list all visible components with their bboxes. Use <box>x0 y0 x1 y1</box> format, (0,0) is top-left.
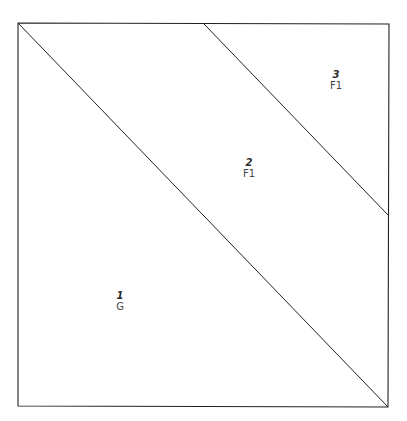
region-1-fabric-code: G <box>116 301 124 312</box>
region-1-number: 1 <box>116 290 124 301</box>
diagonal-seam-line-2 <box>204 24 388 215</box>
region-3-fabric-code: F1 <box>330 80 342 91</box>
region-2-number: 2 <box>243 157 255 168</box>
region-3-number: 3 <box>330 69 342 80</box>
region-2-label: 2 F1 <box>243 157 255 179</box>
region-3-label: 3 F1 <box>330 69 342 91</box>
region-2-fabric-code: F1 <box>243 168 255 179</box>
region-1-label: 1 G <box>116 290 124 312</box>
piecing-diagram <box>0 0 407 421</box>
